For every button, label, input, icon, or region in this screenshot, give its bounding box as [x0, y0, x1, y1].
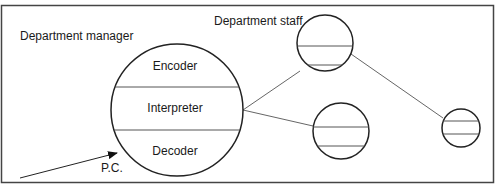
staff-title: Department staff [214, 14, 303, 28]
staff-node-2 [305, 103, 375, 159]
staff-circle-1 [297, 15, 353, 71]
staff-node-3 [440, 109, 482, 147]
manager-node: Encoder Interpreter Decoder [100, 44, 260, 176]
manager-title: Department manager [20, 29, 133, 43]
organization-diagram: Encoder Interpreter Decoder Department m… [0, 0, 498, 185]
connector-manager-staff1 [243, 71, 300, 110]
pc-label: P.C. [101, 161, 123, 175]
encoder-label: Encoder [153, 59, 198, 73]
connector-manager-staff2 [243, 110, 313, 126]
connector-staff1-staff3 [351, 54, 443, 118]
interpreter-label: Interpreter [147, 101, 202, 115]
staff-circle-2 [313, 103, 369, 159]
staff-circle-3 [442, 109, 480, 147]
decoder-label: Decoder [152, 144, 197, 158]
